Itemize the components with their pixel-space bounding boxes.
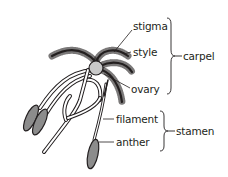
label-carpel: carpel bbox=[183, 50, 214, 62]
label-stamen: stamen bbox=[176, 125, 214, 137]
label-anther: anther bbox=[116, 136, 149, 148]
ovary-shape bbox=[89, 61, 103, 75]
stamen-bracket bbox=[160, 111, 168, 151]
filaments bbox=[40, 70, 108, 152]
anthers bbox=[21, 103, 101, 170]
label-stigma: stigma bbox=[133, 20, 168, 32]
label-ovary: ovary bbox=[131, 83, 160, 95]
label-filament: filament bbox=[116, 113, 158, 125]
anther-3 bbox=[85, 138, 101, 169]
stigma-branches bbox=[52, 50, 132, 102]
carpel-bracket bbox=[167, 18, 175, 94]
flower-diagram bbox=[0, 0, 228, 177]
label-style: style bbox=[133, 46, 157, 58]
